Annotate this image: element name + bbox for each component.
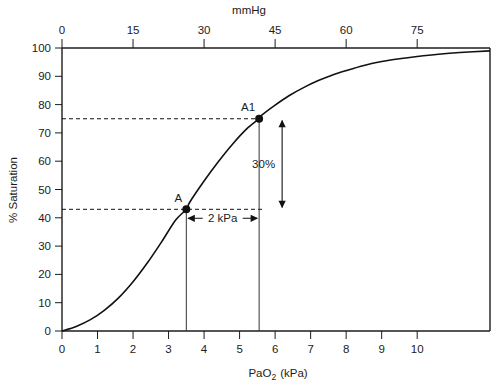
x-axis-tick-label: 2 bbox=[130, 343, 136, 355]
y-axis-title: % Saturation bbox=[7, 157, 19, 223]
oxygen-dissociation-chart: 01530456075 012345678910 010203040506070… bbox=[0, 0, 498, 384]
top-axis-tick-label: 75 bbox=[411, 24, 424, 36]
y-axis-tick-label: 60 bbox=[38, 155, 51, 167]
top-axis-tick-label: 30 bbox=[198, 24, 211, 36]
x-axis-tick-label: 7 bbox=[307, 343, 313, 355]
data-point-a bbox=[182, 205, 190, 213]
x-axis-tick-label: 6 bbox=[272, 343, 278, 355]
y-axis-tick-label: 50 bbox=[38, 184, 51, 196]
saturation-delta-label: 30% bbox=[252, 158, 275, 170]
x-axis-tick-label: 9 bbox=[378, 343, 384, 355]
data-point-a1-label: A1 bbox=[241, 101, 255, 113]
x-axis-tick-label: 3 bbox=[165, 343, 171, 355]
x-axis-title-base: PaO bbox=[248, 367, 271, 379]
data-point-a1 bbox=[255, 115, 263, 123]
top-axis-tick-label: 15 bbox=[127, 24, 140, 36]
pressure-delta-label: 2 kPa bbox=[208, 212, 238, 224]
y-axis-tick-label: 0 bbox=[45, 325, 51, 337]
y-axis-tick-label: 10 bbox=[38, 297, 51, 309]
top-axis-tick-label: 60 bbox=[340, 24, 353, 36]
top-axis-tick-label: 0 bbox=[59, 24, 65, 36]
x-axis-tick-label: 5 bbox=[236, 343, 242, 355]
chart-svg: 01530456075 012345678910 010203040506070… bbox=[0, 0, 498, 384]
x-axis-tick-label: 8 bbox=[343, 343, 349, 355]
y-axis-tick-label: 30 bbox=[38, 240, 51, 252]
top-axis-tick-label: 45 bbox=[269, 24, 282, 36]
y-axis-tick-label: 20 bbox=[38, 268, 51, 280]
data-point-a-label: A bbox=[174, 192, 182, 204]
x-axis-title-unit: (kPa) bbox=[280, 367, 308, 379]
x-axis-tick-label: 1 bbox=[94, 343, 100, 355]
x-axis-tick-label: 0 bbox=[59, 343, 65, 355]
y-axis-tick-label: 100 bbox=[32, 42, 51, 54]
y-axis-tick-label: 90 bbox=[38, 70, 51, 82]
x-axis-tick-label: 10 bbox=[411, 343, 424, 355]
y-axis-tick-label: 70 bbox=[38, 127, 51, 139]
x-axis-title-subscript: 2 bbox=[271, 372, 276, 382]
y-axis-tick-label: 40 bbox=[38, 212, 51, 224]
y-axis-tick-label: 80 bbox=[38, 99, 51, 111]
top-axis-title: mmHg bbox=[232, 4, 266, 16]
x-axis-tick-label: 4 bbox=[201, 343, 208, 355]
